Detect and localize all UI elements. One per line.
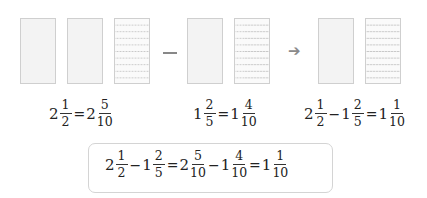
fraction: 12 (315, 99, 327, 128)
equals-sign: = (218, 106, 230, 122)
fraction: 25 (204, 99, 216, 128)
minus-sign: − (130, 157, 142, 173)
fraction: 510 (97, 99, 113, 128)
equation-minuend: 2 12 = 2 510 (49, 99, 114, 128)
whole-number: 2 (49, 105, 59, 123)
whole-number: 1 (193, 105, 203, 123)
minus-icon (163, 52, 177, 54)
whole-number: 2 (86, 105, 96, 123)
equation-subtrahend: 1 25 = 1 410 (193, 99, 258, 128)
equals-sign: = (249, 157, 261, 173)
whole-number: 1 (341, 105, 351, 123)
whole-unit-box (20, 18, 56, 84)
fraction: 12 (116, 150, 128, 179)
whole-number: 1 (262, 156, 272, 174)
whole-number: 2 (304, 105, 314, 123)
minus-sign: − (329, 106, 341, 122)
whole-number: 1 (142, 156, 152, 174)
equals-sign: = (74, 106, 86, 122)
fraction: 510 (190, 150, 206, 179)
equation-difference: 2 12 − 1 25 = 1 110 (304, 99, 406, 128)
whole-number: 2 (105, 156, 115, 174)
equals-sign: = (366, 106, 378, 122)
fraction: 25 (352, 99, 364, 128)
fraction: 25 (153, 150, 165, 179)
fraction: 12 (60, 99, 72, 128)
tenths-box (114, 18, 150, 84)
fraction: 110 (272, 150, 288, 179)
minus-sign: − (208, 157, 220, 173)
equation-summary: 2 12 − 1 25 = 2 510 − 1 410 = 1 110 (105, 150, 289, 179)
whole-unit-box (318, 18, 354, 84)
whole-number: 1 (378, 105, 388, 123)
whole-unit-box (67, 18, 103, 84)
tenths-box (234, 18, 270, 84)
whole-number: 2 (179, 156, 189, 174)
whole-number: 1 (230, 105, 240, 123)
whole-number: 1 (221, 156, 231, 174)
whole-unit-box (187, 18, 223, 84)
equals-sign: = (167, 157, 179, 173)
fraction: 410 (241, 99, 257, 128)
fraction: 110 (389, 99, 405, 128)
arrow-right-icon: ➔ (288, 44, 301, 59)
tenths-box (365, 18, 401, 84)
fraction: 410 (231, 150, 247, 179)
